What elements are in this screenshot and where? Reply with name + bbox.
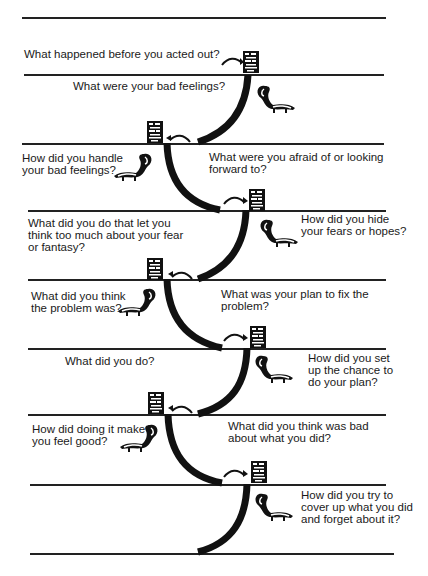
curved-arrow-icon (168, 405, 192, 413)
skunk-icon (261, 220, 298, 247)
notebook-icon (250, 326, 266, 348)
curved-arrow-icon (166, 135, 190, 142)
curved-arrow-icon (168, 271, 192, 279)
question-handle-bad-feelings: How did you handle your bad feelings? (22, 152, 123, 176)
notebook-icon (251, 461, 267, 483)
question-thought-bad: What did you think was bad about what yo… (228, 420, 369, 444)
curved-arrow-icon (224, 197, 248, 204)
question-afraid-of: What were you afraid of or looking forwa… (209, 151, 384, 175)
notebook-icon (249, 189, 265, 211)
curved-path (198, 348, 247, 414)
question-what-happened-before: What happened before you acted out? (24, 48, 220, 60)
curved-arrow-icon (224, 470, 248, 477)
curved-path (168, 414, 222, 483)
question-what-did-you-do: What did you do? (65, 355, 155, 367)
skunk-icon (256, 494, 293, 521)
notebook-icon (148, 392, 164, 414)
notebook-icon (243, 51, 259, 73)
question-hide-fears: How did you hide your fears or hopes? (301, 213, 406, 237)
curved-path (198, 484, 247, 552)
skunk-icon (256, 356, 293, 383)
question-feel-good: How did doing it make you feel good? (32, 423, 145, 447)
curved-arrow-icon (222, 58, 244, 65)
skunk-icon (258, 86, 295, 113)
curved-path (167, 279, 222, 348)
notebook-icon (147, 121, 163, 143)
question-cover-up: How did you try to cover up what you did… (301, 489, 413, 525)
question-bad-feelings: What were your bad feelings? (73, 80, 225, 92)
question-problem-was: What did you think the problem was? (31, 290, 126, 314)
curved-path (198, 210, 246, 279)
question-plan-to-fix: What was your plan to fix the problem? (221, 288, 369, 312)
notebook-icon (147, 258, 163, 280)
curved-arrow-icon (224, 334, 248, 341)
question-set-up-chance: How did you set up the chance to do your… (308, 352, 393, 388)
question-think-too-much: What did you do that let you think too m… (28, 217, 183, 253)
